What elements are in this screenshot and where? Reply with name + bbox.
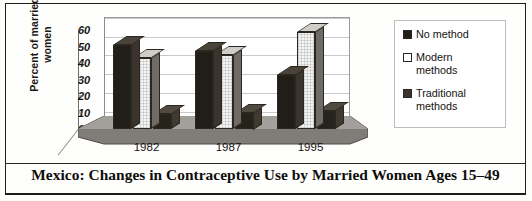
title-divider bbox=[6, 163, 525, 164]
plot-area: 0102030405060 198219871995 bbox=[78, 17, 368, 153]
legend-swatch-gray-icon bbox=[403, 89, 412, 98]
legend-item-no-method: No method bbox=[403, 28, 501, 40]
bar-1987-no-method bbox=[195, 51, 213, 129]
legend-label-traditional-methods: Traditional methods bbox=[416, 87, 466, 112]
bar-side-face bbox=[131, 39, 140, 129]
legend-label-no-method: No method bbox=[416, 28, 469, 40]
x-axis-label-1987: 1987 bbox=[216, 141, 242, 153]
y-axis-label: Percent of married women bbox=[28, 0, 53, 105]
x-axis-label-1982: 1982 bbox=[134, 141, 160, 153]
bar-side-face bbox=[315, 26, 324, 129]
bar-side-face bbox=[335, 105, 344, 129]
figure-bottom-rule bbox=[5, 193, 526, 195]
bar-side-face bbox=[233, 49, 242, 129]
chart-panel: Percent of married women 0102030405060 bbox=[6, 4, 525, 164]
bar-front-face bbox=[113, 45, 131, 129]
bar-front-face bbox=[195, 51, 213, 129]
legend: No method Modern methods Traditional met… bbox=[394, 20, 506, 128]
bars-layer bbox=[78, 17, 368, 153]
legend-item-traditional-methods: Traditional methods bbox=[403, 87, 501, 112]
figure-title: Mexico: Changes in Contraceptive Use by … bbox=[6, 166, 525, 184]
bar-top-face bbox=[113, 36, 145, 45]
legend-item-modern-methods: Modern methods bbox=[403, 51, 501, 76]
bar-top-face bbox=[297, 23, 329, 32]
bar-1995-no-method bbox=[277, 75, 295, 129]
figure-root: Percent of married women 0102030405060 bbox=[0, 0, 532, 201]
legend-label-modern-methods: Modern methods bbox=[416, 51, 457, 76]
bar-side-face bbox=[151, 52, 160, 129]
bar-side-face bbox=[295, 69, 304, 129]
bar-side-face bbox=[213, 46, 222, 129]
bar-front-face bbox=[277, 75, 295, 129]
axis-depth-edge bbox=[58, 129, 79, 156]
legend-swatch-white-icon bbox=[403, 53, 412, 62]
bar-1982-no-method bbox=[113, 45, 131, 129]
legend-swatch-dark-icon bbox=[403, 30, 412, 39]
x-axis-label-1995: 1995 bbox=[298, 141, 324, 153]
